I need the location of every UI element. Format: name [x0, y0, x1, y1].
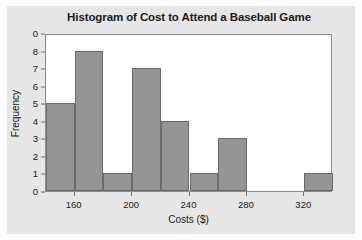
- histogram-bar: [304, 173, 333, 191]
- y-tick-label: 0: [33, 29, 38, 39]
- x-tick-label: 240: [181, 200, 197, 210]
- histogram-bar: [218, 138, 247, 191]
- y-tick-label: 7: [33, 64, 38, 74]
- x-axis-ticks: 160200240280320: [45, 192, 332, 214]
- histogram-bar: [132, 68, 161, 191]
- y-tick-label: 3: [33, 135, 38, 145]
- x-tick-mark: [303, 192, 304, 196]
- x-tick-label: 160: [66, 200, 82, 210]
- y-tick-label: 0: [33, 187, 38, 197]
- x-tick-mark: [131, 192, 132, 196]
- x-tick-mark: [74, 192, 75, 196]
- x-tick-label: 280: [238, 200, 254, 210]
- y-axis-ticks: 0123456780: [0, 34, 45, 192]
- plot-area: [45, 34, 332, 192]
- x-tick-mark: [189, 192, 190, 196]
- y-tick-label: 2: [33, 152, 38, 162]
- x-tick-label: 200: [123, 200, 139, 210]
- y-tick-label: 6: [33, 82, 38, 92]
- y-tick-label: 4: [33, 117, 38, 127]
- histogram-bar: [190, 173, 219, 191]
- y-tick-label: 5: [33, 99, 38, 109]
- x-tick-label: 320: [295, 200, 311, 210]
- x-tick-mark: [246, 192, 247, 196]
- histogram-bar: [46, 103, 75, 191]
- histogram-bar: [103, 173, 132, 191]
- histogram-bar: [161, 121, 190, 191]
- histogram-figure: Histogram of Cost to Attend a Baseball G…: [0, 0, 362, 240]
- x-axis-label: Costs ($): [45, 214, 332, 225]
- histogram-bar: [75, 51, 104, 191]
- y-tick-label: 1: [33, 170, 38, 180]
- y-tick-label: 8: [33, 47, 38, 57]
- bar-series: [46, 35, 331, 191]
- chart-title: Histogram of Cost to Attend a Baseball G…: [45, 11, 333, 23]
